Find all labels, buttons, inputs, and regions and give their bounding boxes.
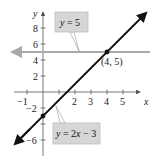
y-tick-label: 6 [33,39,38,50]
x-tick-label: 3 [88,96,93,107]
callout-bottom-label: y = 2x − 3 [55,128,96,139]
x-tick-label: 4 [104,96,109,107]
callout-top-label: y = 5 [59,17,80,28]
callout-top: y = 5 [55,12,88,32]
y-tick-label: −6 [26,135,37,146]
callout-pointer-bottom [56,106,65,123]
x-tick-label: 2 [72,96,77,107]
intersection-point [105,50,110,55]
x-axis-label: x [143,96,149,107]
intersection-label: (4, 5) [101,56,123,68]
y-tick-label: 8 [33,23,38,34]
x-tick-label: 5 [120,96,125,107]
y-intercept-point [41,114,46,119]
y-axis: y 8 6 4 2 −2 −6 [26,8,46,156]
y-tick-label: 2 [33,71,38,82]
coordinate-graph: −1 2 3 4 5 x y 8 6 4 2 −2 −6 y = 5 (4, 5… [0,0,156,163]
y-axis-label: y [32,8,38,19]
callout-pointer-top [70,32,79,51]
y-tick-label: −2 [26,103,37,114]
callout-bottom: y = 2x − 3 [53,123,100,144]
y-tick-label: 4 [33,55,38,66]
